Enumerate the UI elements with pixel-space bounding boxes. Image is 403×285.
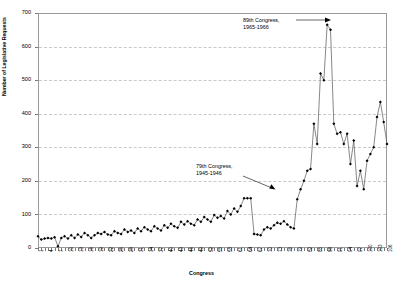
x-tick-mark [75,248,76,251]
x-tick-mark [254,248,255,251]
y-tick-mark [35,80,38,81]
x-tick-mark [224,248,225,251]
y-tick-label: 300 [5,144,31,150]
x-tick-mark [274,248,275,251]
x-tick-mark [234,248,235,251]
x-tick-label: 67 [259,247,264,252]
x-tick-mark [344,248,345,251]
x-tick-label: 61 [239,247,244,252]
x-tick-label: 88 [329,247,334,252]
x-tick-label: 19 [100,247,105,252]
gridline [39,114,386,115]
x-tick-mark [334,248,335,251]
x-tick-mark [45,248,46,251]
y-axis-title: Number of Legislative Requests [2,17,7,96]
x-tick-label: 52 [210,247,215,252]
x-tick-label: 82 [309,247,314,252]
annotation-89th-congress: 89th Congress, 1965-1966 [243,17,280,31]
x-tick-label: 16 [90,247,95,252]
x-tick-mark [314,248,315,251]
x-tick-label: 40 [170,247,175,252]
annotation-79th-line1: 79th Congress, [196,163,233,170]
x-tick-label: 10 [70,247,75,252]
x-tick-label: 49 [200,247,205,252]
y-tick-label: 100 [5,212,31,218]
annotation-79th-line2: 1945-1946 [196,170,233,177]
x-tick-mark [65,248,66,251]
x-tick-label: 79 [299,247,304,252]
x-tick-label: 43 [180,247,185,252]
x-tick-label: 55 [219,247,224,252]
y-tick-label: 700 [5,10,31,16]
x-tick-label: 25 [120,247,125,252]
x-tick-label: 64 [249,247,254,252]
gridline [39,47,386,48]
y-tick-mark [35,114,38,115]
y-tick-mark [35,13,38,14]
legislative-requests-chart: Number of Legislative Requests 010020030… [0,0,403,285]
gridline [39,80,386,81]
x-tick-label: 4 [50,249,55,252]
x-tick-label: 1 [40,249,45,252]
gridline [39,214,386,215]
y-tick-label: 400 [5,111,31,117]
x-tick-mark [284,248,285,251]
x-tick-label: 13 [80,247,85,252]
x-tick-label: 85 [319,247,324,252]
y-tick-label: 0 [5,245,31,251]
annotation-89th-line1: 89th Congress, [243,17,280,24]
x-tick-label: 73 [279,247,284,252]
x-tick-mark [374,248,375,251]
y-tick-mark [35,47,38,48]
y-tick-mark [35,147,38,148]
y-tick-mark [35,214,38,215]
y-tick-label: 200 [5,178,31,184]
plot-area [38,13,387,248]
y-tick-label: 500 [5,77,31,83]
annotation-79th-congress: 79th Congress, 1945-1946 [196,163,233,177]
x-tick-mark [104,248,105,251]
x-tick-label: 46 [190,247,195,252]
gridline [39,181,386,182]
x-tick-mark [244,248,245,251]
gridline [39,147,386,148]
x-tick-label: 58 [229,247,234,252]
x-tick-label: 70 [269,247,274,252]
x-tick-mark [354,248,355,251]
x-tick-mark [384,248,385,251]
y-tick-label: 600 [5,44,31,50]
x-tick-label: 34 [150,247,155,252]
x-tick-label: 103 [379,244,384,252]
x-tick-mark [85,248,86,251]
x-tick-label: 106 [389,244,394,252]
x-tick-label: 91 [339,247,344,252]
x-tick-mark [304,248,305,251]
x-tick-label: 37 [160,247,165,252]
x-tick-mark [95,248,96,251]
x-tick-mark [364,248,365,251]
annotation-89th-line2: 1965-1966 [243,24,280,31]
x-tick-label: 28 [130,247,135,252]
x-tick-mark [324,248,325,251]
x-tick-label: 97 [359,247,364,252]
x-tick-mark [264,248,265,251]
y-tick-mark [35,181,38,182]
x-tick-label: 76 [289,247,294,252]
x-tick-mark [294,248,295,251]
x-tick-label: 7 [60,249,65,252]
x-axis-title: Congress [0,270,403,276]
x-tick-label: 22 [110,247,115,252]
x-tick-label: 31 [140,247,145,252]
x-tick-label: 100 [369,244,374,252]
x-tick-mark [55,248,56,251]
x-tick-label: 94 [349,247,354,252]
